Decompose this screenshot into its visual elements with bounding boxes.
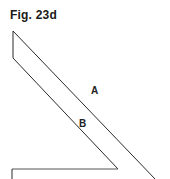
diagonal-strip-diagram — [0, 0, 170, 179]
lower-diagonal-line — [13, 58, 118, 169]
label-b: B — [79, 118, 86, 129]
label-a: A — [91, 85, 98, 96]
upper-diagonal-line — [13, 31, 156, 179]
